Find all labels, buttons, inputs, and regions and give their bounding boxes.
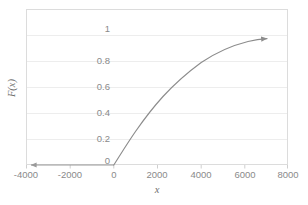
- chart-figure: -4000 -2000 0 2000 4000 6000 8000 0 0.2 …: [0, 0, 308, 205]
- y-axis-title-text: F(x): [6, 79, 17, 97]
- ytick-label-0: 0: [105, 156, 110, 166]
- ytick-label-0.6: 0.6: [97, 82, 110, 92]
- xtick-label--2000: -2000: [58, 170, 82, 180]
- xtick-label-4000: 4000: [190, 170, 211, 180]
- xtick-label-0: 0: [111, 170, 116, 180]
- xtick-label-6000: 6000: [234, 170, 255, 180]
- ytick-label-1: 1: [105, 24, 110, 34]
- y-axis-title: F(x): [7, 79, 18, 97]
- xtick-label--4000: -4000: [14, 170, 38, 180]
- x-axis-title: x: [155, 185, 160, 196]
- ytick-label-0.4: 0.4: [97, 108, 110, 118]
- xtick-label-2000: 2000: [146, 170, 167, 180]
- xtick-label-8000: 8000: [277, 170, 298, 180]
- ytick-label-0.8: 0.8: [97, 56, 110, 66]
- ytick-label-0.2: 0.2: [97, 134, 110, 144]
